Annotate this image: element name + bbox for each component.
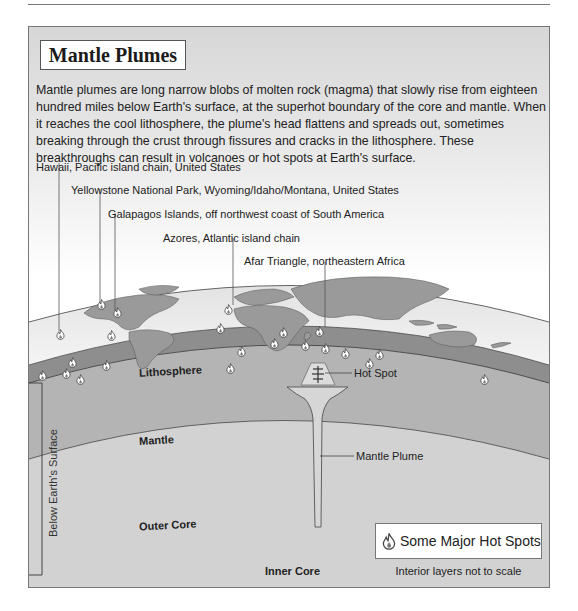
callout-hawaii: Hawaii, Pacific island chain, United Sta… <box>36 161 241 173</box>
callout-galapagos: Galapagos Islands, off northwest coast o… <box>108 208 384 220</box>
earth-cross-section <box>29 27 549 587</box>
callout-afar: Afar Triangle, northeastern Africa <box>244 255 405 267</box>
callout-azores: Azores, Atlantic island chain <box>163 232 300 244</box>
flame-icon <box>382 533 396 550</box>
label-mantle-plume: Mantle Plume <box>356 450 423 462</box>
diagram-frame: Mantle Plumes Mantle plumes are long nar… <box>28 26 550 588</box>
label-below-surface: Below Earth's Surface <box>47 429 59 537</box>
scale-note: Interior layers not to scale <box>375 565 542 577</box>
callout-yellowstone: Yellowstone National Park, Wyoming/Idaho… <box>71 184 399 196</box>
top-rule <box>28 4 550 5</box>
label-hot-spot: Hot Spot <box>354 367 397 379</box>
label-inner-core: Inner Core <box>265 565 320 577</box>
legend-label: Some Major Hot Spots <box>400 533 541 549</box>
label-mantle: Mantle <box>139 433 174 447</box>
legend: Some Major Hot Spots <box>375 523 542 559</box>
